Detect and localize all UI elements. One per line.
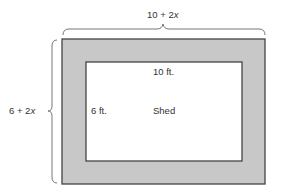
outer-width-label: 10 + 2x [147,10,178,20]
shed-label: Shed [153,106,175,116]
left-brace [48,40,57,183]
inner-width-label: 10 ft. [153,67,174,77]
shed-diagram [0,0,281,196]
inner-height-label: 6 ft. [91,106,107,116]
outer-height-label: 6 + 2x [9,106,35,116]
top-brace [63,24,265,35]
